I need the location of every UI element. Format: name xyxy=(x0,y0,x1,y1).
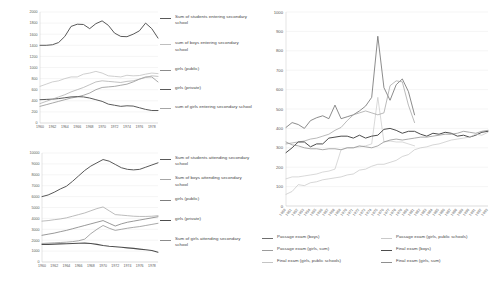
chart-panel-entering: 0200400600800100012001400160018002000196… xyxy=(0,0,255,143)
legend-item[interactable]: Sum of girls attending secondary school xyxy=(160,236,252,248)
y-tick-label: 400 xyxy=(32,99,38,103)
legend-item[interactable]: Passage exam (boys) xyxy=(262,234,371,240)
legend-item[interactable]: Passage exam (girls, sum) xyxy=(262,246,371,252)
y-tick-label: 900 xyxy=(276,29,284,34)
y-tick-label: 5000 xyxy=(32,206,40,210)
x-tick-label: 1964 xyxy=(63,264,71,268)
y-tick-label: 500 xyxy=(276,107,284,112)
series-line xyxy=(42,243,158,252)
y-tick-label: 6000 xyxy=(32,195,40,199)
legend-swatch-icon xyxy=(160,70,171,71)
legend-item[interactable]: Final exam (girls, sum) xyxy=(381,258,490,264)
legend-swatch-icon xyxy=(160,200,171,201)
y-tick-label: 200 xyxy=(276,165,284,170)
legend-item[interactable]: Final exam (girls, public schools) xyxy=(262,258,371,264)
legend-label: sum of girls entering secondary school xyxy=(175,104,252,110)
legend-exams: Passage exam (boys)Passage exam (girls, … xyxy=(262,234,490,264)
y-tick-label: 600 xyxy=(32,88,38,92)
y-tick-label: 1200 xyxy=(30,55,38,59)
y-tick-label: 1000 xyxy=(30,66,38,70)
legend-item[interactable]: Sum of boys attending secondary school xyxy=(160,175,252,187)
y-tick-label: 9000 xyxy=(32,162,40,166)
legend-item[interactable]: Sum of students attending secondary scho… xyxy=(160,155,252,167)
legend-label: Sum of girls attending secondary school xyxy=(175,236,252,248)
x-tick-label: 1970 xyxy=(99,264,107,268)
legend-swatch-icon xyxy=(160,220,171,221)
legend-item[interactable]: Passage exam (girls, public schools) xyxy=(381,234,490,240)
legend-item[interactable]: girls (private) xyxy=(160,216,252,222)
legend-item[interactable]: girls (private) xyxy=(160,85,252,91)
y-tick-label: 2000 xyxy=(32,239,40,243)
x-tick-label: 1974 xyxy=(124,264,132,268)
y-tick-label: 100 xyxy=(276,184,284,189)
series-line xyxy=(40,97,158,111)
y-tick-label: 4000 xyxy=(32,217,40,221)
y-tick-label: 1400 xyxy=(30,44,38,48)
y-tick-label: 7000 xyxy=(32,184,40,188)
y-tick-label: 200 xyxy=(32,110,38,114)
legend-item[interactable]: sum of girls entering secondary school xyxy=(160,104,252,110)
y-tick-label: 800 xyxy=(276,48,284,53)
series-line xyxy=(40,21,158,45)
legend-swatch-icon xyxy=(160,108,171,109)
x-tick-label: 1972 xyxy=(111,264,119,268)
series-line xyxy=(42,207,158,221)
legend-label: girls (private) xyxy=(175,85,201,91)
x-tick-label: 1962 xyxy=(49,125,57,129)
plot-area-attending: 0100020003000400050006000700080009000100… xyxy=(18,151,158,271)
y-tick-label: 1800 xyxy=(30,21,38,25)
x-tick-label: 1970 xyxy=(98,125,106,129)
legend-swatch-icon xyxy=(160,89,171,90)
y-tick-label: 700 xyxy=(276,68,284,73)
x-tick-label: 1960 xyxy=(38,264,46,268)
legend-swatch-icon xyxy=(160,179,171,180)
legend-item[interactable]: sum of boys entering secondary school xyxy=(160,40,252,52)
legend-item[interactable]: Sum of students entering secondary schoo… xyxy=(160,14,252,26)
legend-swatch-icon xyxy=(262,250,273,251)
legend-label: sum of boys entering secondary school xyxy=(175,40,252,52)
legend-attending: Sum of students attending secondary scho… xyxy=(160,155,252,249)
x-tick-label: 1968 xyxy=(86,125,94,129)
legend-swatch-icon xyxy=(262,262,273,263)
y-tick-label: 600 xyxy=(276,87,284,92)
series-line xyxy=(286,97,415,178)
legend-label: Passage exam (boys) xyxy=(277,234,320,240)
line-chart-exams: 0100200300400500600700800900100019601961… xyxy=(260,10,488,234)
legend-label: Final exam (girls, sum) xyxy=(396,258,441,264)
legend-item[interactable]: Final exam (boys) xyxy=(381,246,490,252)
legend-item[interactable]: girls (public) xyxy=(160,196,252,202)
legend-label: Passage exam (girls, public schools) xyxy=(396,234,468,240)
y-tick-label: 300 xyxy=(276,145,284,150)
y-tick-label: 400 xyxy=(276,126,284,131)
legend-swatch-icon xyxy=(160,44,171,45)
legend-swatch-icon xyxy=(381,238,392,239)
chart-panel-exams: 0100200300400500600700800900100019601961… xyxy=(248,0,493,287)
x-tick-label: 1968 xyxy=(87,264,95,268)
legend-swatch-icon xyxy=(160,240,171,241)
y-tick-label: 3000 xyxy=(32,228,40,232)
x-tick-label: 1964 xyxy=(61,125,69,129)
y-tick-label: 800 xyxy=(32,77,38,81)
x-tick-label: 1976 xyxy=(136,264,144,268)
legend-entering: Sum of students entering secondary schoo… xyxy=(160,14,252,110)
x-tick-label: 1974 xyxy=(123,125,131,129)
legend-label: Sum of students entering secondary schoo… xyxy=(175,14,252,26)
series-line xyxy=(286,36,415,128)
y-tick-label: 1000 xyxy=(32,249,40,253)
series-line xyxy=(286,130,488,149)
legend-swatch-icon xyxy=(160,159,171,160)
y-tick-label: 2000 xyxy=(30,10,38,14)
legend-swatch-icon xyxy=(262,238,273,239)
x-tick-label: 1960 xyxy=(36,125,44,129)
legend-swatch-icon xyxy=(381,250,392,251)
legend-label: Sum of students attending secondary scho… xyxy=(175,155,252,167)
plot-area-exams: 0100200300400500600700800900100019601961… xyxy=(260,10,488,210)
chart-panel-attending: 0100020003000400050006000700080009000100… xyxy=(0,143,255,287)
series-line xyxy=(42,160,158,197)
x-tick-label: 1993 xyxy=(481,208,489,217)
legend-item[interactable]: girls (public) xyxy=(160,66,252,72)
x-tick-label: 1978 xyxy=(148,125,156,129)
legend-swatch-icon xyxy=(381,262,392,263)
legend-label: Final exam (girls, public schools) xyxy=(277,258,341,264)
x-tick-label: 1966 xyxy=(73,125,81,129)
